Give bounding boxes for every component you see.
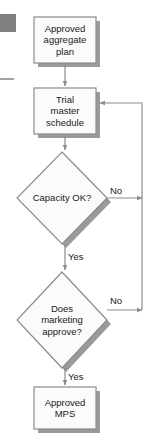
node-trial-master-schedule[interactable] bbox=[34, 88, 96, 134]
flowchart-canvas: Approved aggregate plan Trial master sch… bbox=[0, 0, 148, 437]
node-capacity-ok[interactable] bbox=[17, 152, 107, 244]
edge-label-marketing-yes: Yes bbox=[68, 372, 84, 382]
edge-label-capacity-yes: Yes bbox=[68, 252, 84, 262]
node-does-marketing-approve[interactable] bbox=[17, 272, 107, 368]
edge-label-capacity-no: No bbox=[110, 186, 122, 196]
node-approved-aggregate-plan[interactable] bbox=[34, 17, 96, 63]
page-marker-square bbox=[0, 14, 16, 32]
edge-label-marketing-no: No bbox=[110, 296, 122, 306]
node-approved-mps[interactable] bbox=[34, 387, 96, 429]
